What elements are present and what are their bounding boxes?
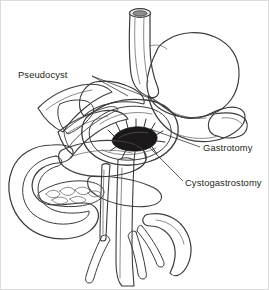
label-pseudocyst: Pseudocyst bbox=[18, 69, 68, 80]
label-gastrotomy: Gastrotomy bbox=[203, 142, 253, 153]
cystogastrostomy-figure: Pseudocyst Gastrotomy Cystogastrostomy bbox=[0, 0, 269, 290]
label-cystogastrostomy: Cystogastrostomy bbox=[185, 177, 262, 188]
anatomy-illustration: Pseudocyst Gastrotomy Cystogastrostomy bbox=[0, 0, 269, 290]
esophagus-lumen bbox=[133, 11, 147, 16]
